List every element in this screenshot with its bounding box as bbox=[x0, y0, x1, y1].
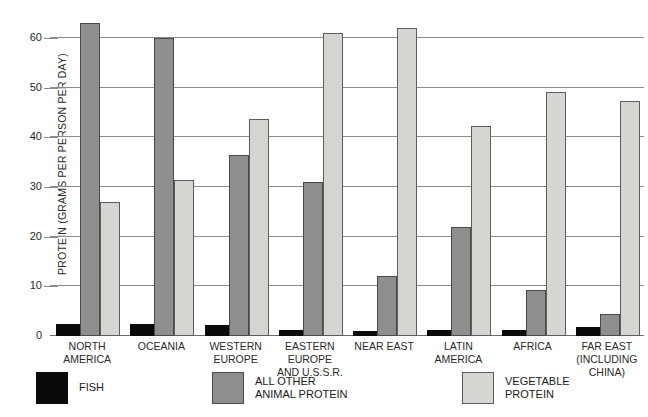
bar-group bbox=[347, 8, 421, 336]
category-label-line: EUROPE bbox=[201, 353, 271, 366]
y-tick-label: 60 bbox=[18, 31, 42, 43]
bar bbox=[174, 180, 194, 336]
bar-group bbox=[273, 8, 347, 336]
bar-group bbox=[199, 8, 273, 336]
bar bbox=[502, 330, 526, 336]
legend-item: ALL OTHERANIMAL PROTEIN bbox=[212, 372, 462, 404]
category-label-line: AFRICA bbox=[498, 340, 568, 353]
bar bbox=[546, 92, 566, 337]
bar bbox=[397, 28, 417, 336]
legend-label-line: FISH bbox=[79, 381, 104, 395]
bar-group bbox=[570, 8, 644, 336]
y-tick-label: 20 bbox=[18, 230, 42, 242]
fish-swatch bbox=[36, 372, 68, 404]
bar bbox=[620, 101, 640, 336]
bar bbox=[377, 276, 397, 336]
category-label-line: (INCLUDING bbox=[572, 353, 642, 366]
y-tick-label: 30 bbox=[18, 180, 42, 192]
chart-legend: FISHALL OTHERANIMAL PROTEINVEGETABLEPROT… bbox=[36, 372, 636, 404]
bar bbox=[323, 33, 343, 336]
bar bbox=[526, 290, 546, 336]
bar bbox=[56, 324, 80, 336]
category-label-line: WESTERN bbox=[201, 340, 271, 353]
bar bbox=[154, 38, 174, 336]
bar bbox=[427, 330, 451, 336]
protein-consumption-bar-chart: PROTEIN (GRAMS PER PERSON PER DAY) 01020… bbox=[0, 0, 648, 417]
bar bbox=[576, 327, 600, 336]
y-tick-label: 50 bbox=[18, 81, 42, 93]
legend-item: VEGETABLEPROTEIN bbox=[462, 372, 636, 404]
legend-label: ALL OTHERANIMAL PROTEIN bbox=[255, 375, 348, 402]
bar bbox=[451, 227, 471, 336]
y-tick-mark bbox=[44, 88, 58, 89]
bar bbox=[229, 155, 249, 336]
bar bbox=[279, 330, 303, 336]
bar bbox=[100, 202, 120, 336]
legend-label-line: PROTEIN bbox=[505, 388, 570, 402]
y-tick-label: 0 bbox=[18, 329, 42, 341]
plot-area bbox=[50, 8, 644, 336]
bar bbox=[80, 23, 100, 336]
vegetable-protein-swatch bbox=[462, 372, 494, 404]
bar bbox=[600, 314, 620, 336]
y-tick-mark bbox=[44, 137, 58, 138]
bar bbox=[205, 325, 229, 336]
category-label-line: EUROPE bbox=[275, 353, 345, 366]
category-label-line: AMERICA bbox=[423, 353, 493, 366]
category-label-line: EASTERN bbox=[275, 340, 345, 353]
bar bbox=[303, 182, 323, 336]
bar bbox=[249, 119, 269, 336]
animal-protein-swatch bbox=[212, 372, 244, 404]
y-tick-label: 10 bbox=[18, 279, 42, 291]
legend-label-line: ANIMAL PROTEIN bbox=[255, 388, 348, 402]
legend-item: FISH bbox=[36, 372, 212, 404]
category-label-line: AMERICA bbox=[52, 353, 122, 366]
category-label-line: NEAR EAST bbox=[349, 340, 419, 353]
bar-group bbox=[50, 8, 124, 336]
bar-group bbox=[496, 8, 570, 336]
legend-label: VEGETABLEPROTEIN bbox=[505, 375, 570, 402]
category-label-line: LATIN bbox=[423, 340, 493, 353]
legend-label-line: VEGETABLE bbox=[505, 375, 570, 389]
y-tick-label: 40 bbox=[18, 130, 42, 142]
bar bbox=[130, 324, 154, 336]
y-tick-mark bbox=[44, 237, 58, 238]
y-tick-mark bbox=[44, 187, 58, 188]
y-tick-mark bbox=[44, 38, 58, 39]
bar bbox=[353, 331, 377, 336]
y-tick-mark bbox=[44, 286, 58, 287]
category-label-line: FAR EAST bbox=[572, 340, 642, 353]
bar-group bbox=[124, 8, 198, 336]
category-label-line: OCEANIA bbox=[126, 340, 196, 353]
bar-groups bbox=[50, 8, 644, 336]
category-label-line: NORTH bbox=[52, 340, 122, 353]
bar bbox=[471, 126, 491, 336]
bar-group bbox=[421, 8, 495, 336]
legend-label-line: ALL OTHER bbox=[255, 375, 348, 389]
legend-label: FISH bbox=[79, 381, 104, 395]
